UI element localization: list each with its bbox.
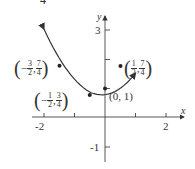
point-label-vertex: (−12,34) — [34, 90, 68, 110]
point-marker — [103, 87, 107, 91]
point-marker — [88, 93, 92, 97]
point-markers — [0, 0, 195, 169]
point-label-0-1: (0, 1) — [109, 91, 133, 102]
point-marker — [119, 64, 123, 68]
point-label-1-2: (12,74) — [124, 58, 152, 78]
point-label-neg3-2: (−32,74) — [14, 58, 48, 78]
point-marker — [58, 64, 62, 68]
